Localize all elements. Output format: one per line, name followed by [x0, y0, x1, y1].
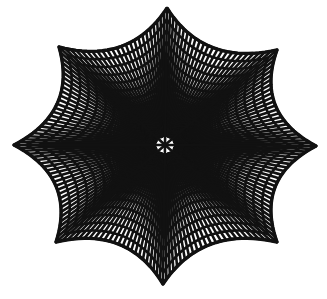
star-mesh-graphic: [0, 0, 327, 299]
mesh-figure: [0, 0, 327, 299]
